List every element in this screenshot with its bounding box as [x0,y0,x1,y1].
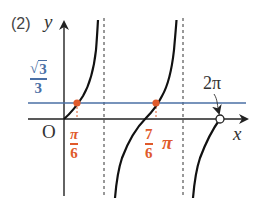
intersection-point-7pi-over-6 [152,99,159,106]
7-over-6-numerator: 7 [145,126,153,143]
7-over-6-denominator: 6 [145,145,153,162]
pi-over-6-denominator: 6 [70,145,78,162]
problem-number: (2) [11,16,31,32]
tan-curve-branch-3 [193,119,220,198]
sqrt3-over-3-label: √3 3 [30,60,47,97]
tan-curve-branch-1 [64,20,98,119]
7-over-6-pi-suffix: π [162,132,172,154]
y-axis-label: y [44,12,52,31]
x-axis-label: x [233,124,241,143]
pi-over-6-label: π 6 [70,126,78,162]
tan-curve-branch-2 [115,20,177,198]
7-over-6-label: 7 6 [145,126,153,162]
pi-over-6-numerator: π [70,126,78,143]
sqrt3-denominator: 3 [35,80,43,97]
tangent-graph-diagram: (2) y x O √3 3 π 6 7 6 π 2π [0,0,261,218]
intersection-point-pi-over-6 [73,99,80,106]
origin-label: O [42,122,56,141]
two-pi-label: 2π [203,74,221,92]
sqrt3-numerator: √3 [30,60,47,78]
open-circle-2pi [216,115,224,123]
graph-canvas [0,0,261,218]
